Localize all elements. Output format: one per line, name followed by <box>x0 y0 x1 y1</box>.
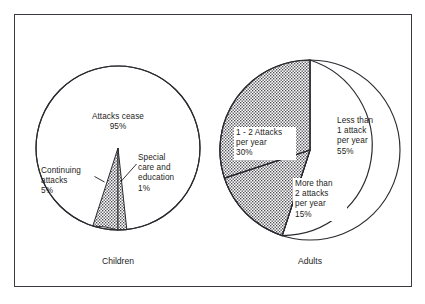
children-special-line1: Special <box>138 153 192 163</box>
children-label-continuing-attacks: Continuing attacks 5% <box>41 166 97 197</box>
adults-more-than-line3: per year <box>295 199 345 209</box>
children-label-attacks-cease: Attacks cease 95% <box>78 112 158 132</box>
adults-more-than-line2: 2 attacks <box>295 189 345 199</box>
children-special-line3: education <box>138 173 192 183</box>
adults-label-less-than-1: Less than 1 attack per year 55% <box>337 116 389 157</box>
children-continuing-line3: 5% <box>41 186 97 196</box>
children-continuing-line2: attacks <box>41 176 97 186</box>
adults-less-than-line4: 55% <box>337 147 389 157</box>
adults-less-than-line1: Less than <box>337 116 389 126</box>
children-attacks-cease-line1: Attacks cease <box>78 112 158 122</box>
adults-one-two-line1: 1 - 2 Attacks <box>236 128 294 138</box>
adults-label-more-than-2: More than 2 attacks per year 15% <box>293 178 347 221</box>
children-continuing-line1: Continuing <box>41 166 97 176</box>
adults-one-two-line2: per year <box>236 138 294 148</box>
children-caption: Children <box>78 256 158 266</box>
children-label-special-care: Special care and education 1% <box>138 153 192 194</box>
adults-more-than-line1: More than <box>295 179 345 189</box>
adults-one-two-line3: 30% <box>236 148 294 158</box>
adults-less-than-line2: 1 attack <box>337 126 389 136</box>
children-attacks-cease-line2: 95% <box>78 122 158 132</box>
children-special-line4: 1% <box>138 184 192 194</box>
children-pie-group <box>36 66 200 230</box>
adults-label-1-2-attacks: 1 - 2 Attacks per year 30% <box>234 127 296 160</box>
adults-more-than-line4: 15% <box>295 210 345 220</box>
children-special-line2: care and <box>138 163 192 173</box>
adults-less-than-line3: per year <box>337 136 389 146</box>
pie-chart-figure: Attacks cease 95% Continuing attacks 5% … <box>0 0 425 304</box>
adults-caption: Adults <box>270 256 350 266</box>
